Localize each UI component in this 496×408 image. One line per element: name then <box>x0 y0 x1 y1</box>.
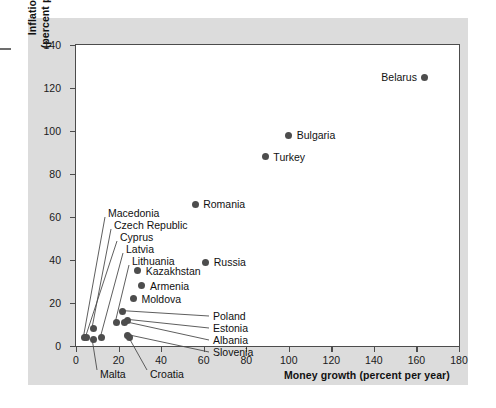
point-label-romania: Romania <box>203 199 245 210</box>
data-point-romania[interactable] <box>192 201 199 208</box>
data-point-latvia[interactable] <box>98 334 105 341</box>
y-tick-label-120: 120 <box>43 82 61 94</box>
x-tick-label-60: 60 <box>198 354 210 366</box>
x-tick-100 <box>289 346 290 352</box>
y-tick-140: 140 <box>70 45 76 46</box>
data-point-kazakhstan[interactable] <box>134 267 141 274</box>
x-tick-label-40: 40 <box>155 354 167 366</box>
x-tick-140 <box>374 346 375 352</box>
data-point-russia[interactable] <box>202 259 209 266</box>
y-tick-100: 100 <box>70 131 76 132</box>
x-tick-0 <box>76 346 77 352</box>
y-tick-40: 40 <box>70 260 76 261</box>
y-tick-20: 20 <box>70 303 76 304</box>
point-label-estonia: Estonia <box>213 323 248 334</box>
data-point-poland[interactable] <box>119 308 126 315</box>
y-tick-label-140: 140 <box>43 39 61 51</box>
point-label-armenia: Armenia <box>150 280 189 291</box>
point-label-bulgaria: Bulgaria <box>297 130 336 141</box>
y-tick-label-60: 60 <box>49 211 61 223</box>
figure-panel: Inflation rate (percent per year) Money … <box>28 18 468 385</box>
data-point-albania[interactable] <box>121 319 128 326</box>
data-point-bulgaria[interactable] <box>285 132 292 139</box>
x-tick-label-140: 140 <box>365 354 383 366</box>
data-point-malta[interactable] <box>90 336 97 343</box>
x-tick-60 <box>204 346 205 352</box>
point-label-macedonia: Macedonia <box>108 208 159 219</box>
data-point-moldova[interactable] <box>130 295 137 302</box>
point-label-latvia: Latvia <box>126 244 154 255</box>
point-label-poland: Poland <box>213 311 246 322</box>
y-tick-60: 60 <box>70 217 76 218</box>
y-tick-80: 80 <box>70 174 76 175</box>
y-axis-title-line1: Inflation rate <box>26 0 39 73</box>
point-label-slovenia: Slovenia <box>213 347 253 358</box>
y-tick-label-20: 20 <box>49 297 61 309</box>
point-label-malta: Malta <box>100 369 126 380</box>
x-tick-label-100: 100 <box>280 354 298 366</box>
point-label-turkey: Turkey <box>273 151 305 162</box>
x-tick-120 <box>331 346 332 352</box>
page-edge-mark <box>0 48 11 50</box>
point-label-czech-republic: Czech Republic <box>114 220 188 231</box>
y-tick-label-0: 0 <box>55 340 61 352</box>
x-tick-160 <box>416 346 417 352</box>
point-label-albania: Albania <box>213 335 248 346</box>
x-tick-label-20: 20 <box>113 354 125 366</box>
data-point-armenia[interactable] <box>138 282 145 289</box>
x-tick-180 <box>459 346 460 352</box>
y-tick-label-40: 40 <box>49 254 61 266</box>
y-tick-label-80: 80 <box>49 168 61 180</box>
y-axis-title-line2: (percent per year) <box>39 0 52 73</box>
point-label-belarus: Belarus <box>381 72 417 83</box>
point-label-croatia: Croatia <box>150 369 184 380</box>
data-point-lithuania[interactable] <box>113 319 120 326</box>
point-label-moldova: Moldova <box>141 293 181 304</box>
x-axis-title: Money growth (percent per year) <box>284 369 450 381</box>
data-point-belarus[interactable] <box>421 74 428 81</box>
x-tick-label-0: 0 <box>73 354 79 366</box>
y-tick-120: 120 <box>70 88 76 89</box>
data-point-croatia[interactable] <box>126 334 133 341</box>
x-tick-label-180: 180 <box>450 354 468 366</box>
x-tick-20 <box>119 346 120 352</box>
point-label-cyprus: Cyprus <box>120 232 153 243</box>
plot-area: 020406080100120140 020406080100120140160… <box>75 44 460 347</box>
data-point-czech-republic[interactable] <box>90 325 97 332</box>
y-tick-label-100: 100 <box>43 125 61 137</box>
x-tick-label-120: 120 <box>323 354 341 366</box>
point-label-lithuania: Lithuania <box>132 256 175 267</box>
data-point-turkey[interactable] <box>262 153 269 160</box>
x-tick-40 <box>161 346 162 352</box>
y-axis-title: Inflation rate (percent per year) <box>26 0 51 73</box>
point-label-russia: Russia <box>214 257 246 268</box>
x-tick-label-160: 160 <box>408 354 426 366</box>
